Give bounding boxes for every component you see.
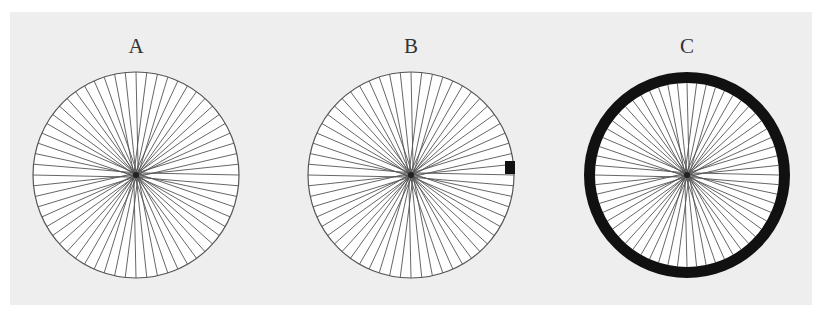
hub [684, 172, 690, 178]
spoked-wheel-a [25, 64, 247, 286]
spoked-wheel-c-thick-rim [576, 64, 798, 286]
label-a: A [116, 34, 156, 58]
label-c: C [667, 34, 707, 58]
hub [133, 172, 139, 178]
black-square-marker [505, 161, 515, 174]
label-b: B [391, 34, 431, 58]
wheel-figure: A B C [0, 0, 826, 320]
hub [408, 172, 414, 178]
spoked-wheel-b [300, 64, 522, 286]
